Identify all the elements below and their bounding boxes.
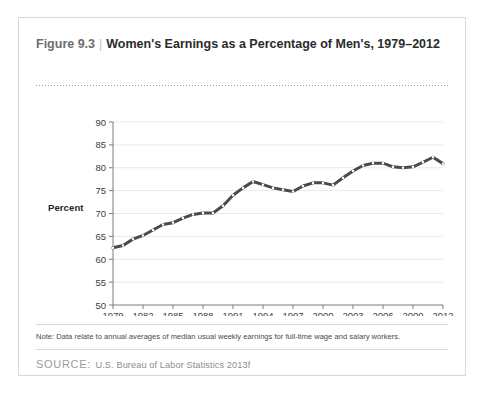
title-divider: [36, 85, 448, 86]
data-point-marker: [402, 167, 404, 169]
y-axis-title: Percent: [48, 202, 84, 213]
data-point-marker: [122, 244, 124, 246]
data-point-marker: [432, 156, 434, 158]
data-point-marker: [212, 212, 214, 214]
data-point-marker: [202, 212, 204, 214]
source-citation: U.S. Bureau of Labor Statistics 2013f: [95, 360, 250, 370]
data-point-marker: [292, 190, 294, 192]
y-axis-tick-label: 70: [95, 208, 106, 219]
source-divider: [36, 349, 448, 350]
data-point-marker: [262, 184, 264, 186]
x-axis-tick-label: 1985: [162, 310, 183, 316]
data-point-marker: [412, 166, 414, 168]
data-point-marker: [192, 213, 194, 215]
data-point-marker: [382, 162, 384, 164]
figure-number: Figure 9.3: [36, 37, 95, 51]
figure-title-text: Women's Earnings as a Percentage of Men'…: [106, 37, 440, 51]
data-point-marker: [322, 182, 324, 184]
x-axis-tick-label: 1991: [222, 310, 243, 316]
gridlines: [113, 122, 443, 282]
data-point-marker: [352, 170, 354, 172]
x-axis-tick-label: 2006: [372, 310, 393, 316]
data-point-marker: [272, 187, 274, 189]
figure-source: SOURCE: U.S. Bureau of Labor Statistics …: [36, 356, 448, 372]
x-axis-tick-label: 1997: [282, 310, 303, 316]
figure-title-block: Figure 9.3|Women's Earnings as a Percent…: [36, 36, 448, 53]
x-axis-tick-label: 2003: [342, 310, 363, 316]
data-point-marker: [152, 229, 154, 231]
y-axis-tick-label: 75: [95, 185, 106, 196]
y-axis-tick-label: 55: [95, 277, 106, 288]
earnings-ratio-line: [113, 157, 443, 248]
x-axis-tick-label: 1994: [252, 310, 273, 316]
title-separator: |: [95, 37, 106, 51]
data-point-marker: [302, 185, 304, 187]
y-axis-tick-label: 50: [95, 300, 106, 311]
data-point-marker: [372, 162, 374, 164]
x-axis-tick-label: 2012: [432, 310, 453, 316]
data-point-marker: [342, 177, 344, 179]
x-axis-tick-label: 1979: [102, 310, 123, 316]
x-axis-tick-label: 2000: [312, 310, 333, 316]
y-axis-tick-label: 60: [95, 254, 106, 265]
y-axis-tick-label: 90: [95, 117, 106, 128]
data-point-marker: [252, 180, 254, 182]
data-point-marker: [362, 164, 364, 166]
source-label: SOURCE:: [36, 358, 91, 370]
data-point-markers: [112, 156, 444, 249]
figure-note: Note: Data relate to annual averages of …: [36, 331, 448, 342]
data-point-marker: [422, 161, 424, 163]
x-axis-tick-label: 2009: [402, 310, 423, 316]
note-divider: [36, 324, 448, 325]
line-chart-svg: 505560657075808590 197919821985198819911…: [29, 92, 457, 316]
data-point-marker: [312, 182, 314, 184]
data-point-marker: [392, 166, 394, 168]
x-axis-tick-labels: 1979198219851988199119941997200020032006…: [102, 305, 453, 316]
y-axis-tick-label: 65: [95, 231, 106, 242]
data-point-marker: [332, 184, 334, 186]
figure-title: Figure 9.3|Women's Earnings as a Percent…: [36, 36, 448, 53]
data-point-marker: [132, 238, 134, 240]
data-point-marker: [142, 234, 144, 236]
data-point-marker: [222, 205, 224, 207]
data-point-marker: [232, 194, 234, 196]
data-point-marker: [442, 163, 444, 165]
x-axis-tick-label: 1988: [192, 310, 213, 316]
y-axis-tick-labels: 505560657075808590: [95, 117, 113, 311]
x-axis-tick-label: 1982: [132, 310, 153, 316]
chart-plot-area: 505560657075808590 197919821985198819911…: [29, 92, 457, 316]
figure-card: Figure 9.3|Women's Earnings as a Percent…: [18, 17, 466, 376]
y-axis-tick-label: 80: [95, 162, 106, 173]
data-point-marker: [182, 217, 184, 219]
data-point-marker: [172, 222, 174, 224]
data-point-marker: [162, 223, 164, 225]
y-axis-tick-label: 85: [95, 139, 106, 150]
data-point-marker: [242, 187, 244, 189]
data-point-marker: [112, 247, 114, 249]
data-point-marker: [282, 189, 284, 191]
